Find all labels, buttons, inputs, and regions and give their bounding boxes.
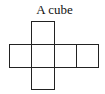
cube-net <box>0 0 105 94</box>
net-square-left <box>10 45 32 68</box>
net-square-right-1 <box>55 45 77 68</box>
net-square-right-2 <box>77 45 99 68</box>
net-square-bottom <box>32 68 55 90</box>
net-square-top <box>32 22 55 45</box>
net-square-center <box>32 45 55 68</box>
